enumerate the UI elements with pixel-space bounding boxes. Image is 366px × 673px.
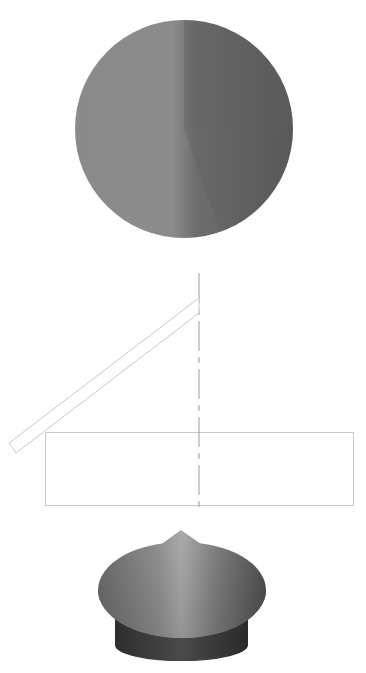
- inclined-strip: [9, 298, 199, 453]
- top-view: [75, 20, 293, 238]
- perspective-view: [98, 530, 266, 661]
- section-view: [9, 273, 354, 507]
- technical-drawing: [0, 0, 366, 673]
- cone-cap-shading: [98, 542, 266, 638]
- cone-shadow-sector: [184, 20, 293, 129]
- cone-apex: [183, 128, 186, 131]
